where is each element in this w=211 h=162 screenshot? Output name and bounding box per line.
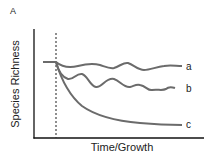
series-c-line [56, 62, 182, 125]
x-axis-label: Time/Growth [91, 141, 154, 153]
chart-plot: a b c [0, 0, 211, 162]
series-c-label: c [186, 119, 191, 130]
series-a-label: a [186, 61, 192, 72]
series-a-line [56, 62, 182, 70]
series-b-label: b [186, 83, 192, 94]
y-axis-label: Species Richness [9, 40, 21, 127]
